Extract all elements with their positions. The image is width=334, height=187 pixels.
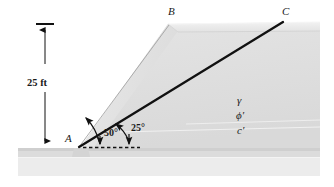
figure-canvas xyxy=(0,0,334,187)
soil-property-unit-weight: γ xyxy=(237,95,241,106)
ground-edge-face xyxy=(18,151,320,157)
soil-property-cohesion: c′ xyxy=(237,125,244,136)
point-label-b: B xyxy=(168,6,175,17)
angle-label-25: 25° xyxy=(131,123,145,133)
ground-top-edge xyxy=(18,148,320,151)
slope-stability-figure: A B C 25 ft 50° 25° γ ϕ′ c′ © Cengage Le… xyxy=(0,0,334,187)
ground-surface xyxy=(18,148,320,176)
toe-wedge xyxy=(72,148,90,157)
soil-property-friction-angle: ϕ′ xyxy=(236,110,244,121)
ground-lower-face xyxy=(18,157,320,176)
height-dimension-label: 25 ft xyxy=(27,78,47,89)
point-label-a: A xyxy=(65,133,72,144)
angle-label-50: 50° xyxy=(104,128,118,138)
point-label-c: C xyxy=(282,6,289,17)
